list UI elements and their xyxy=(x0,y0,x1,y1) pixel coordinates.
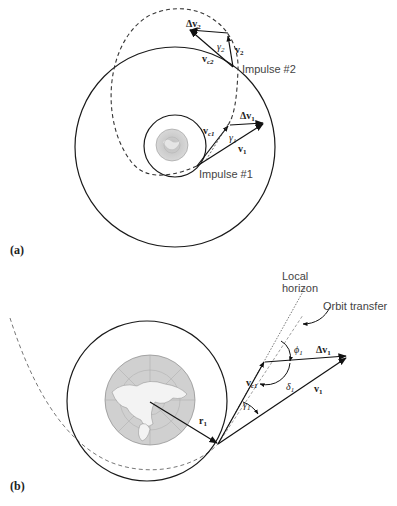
orbit-transfer-label: Orbit transfer xyxy=(323,300,388,312)
local-horizon-label-2: horizon xyxy=(282,282,318,294)
earth-globe-icon xyxy=(105,355,195,445)
vc1-arrow-b xyxy=(218,362,264,444)
label-vc2-a: vc2 xyxy=(202,53,214,66)
label-phi1: ϕ1 xyxy=(294,344,303,357)
label-dv1-b: Δv1 xyxy=(316,344,331,357)
orbit-transfer-line xyxy=(218,315,303,444)
local-horizon-label-1: Local xyxy=(282,270,308,282)
label-v1-a: v1 xyxy=(238,143,247,156)
label-delta1: δ1 xyxy=(286,381,294,394)
phi1-arc xyxy=(281,341,290,361)
impulse-1-label: Impulse #1 xyxy=(199,168,253,180)
panel-a-label: (a) xyxy=(10,243,24,257)
label-dv2-a: Δv2 xyxy=(186,18,201,31)
dv1-arrow-b xyxy=(265,356,346,362)
label-v1-b: v1 xyxy=(314,383,323,396)
panel-a: Δv1 vc1 γ1 v1 Impulse #1 Δv2 γ2 v2 vc2 I… xyxy=(10,9,296,257)
dv2-arrow xyxy=(190,30,228,33)
dv1-arrow xyxy=(230,123,263,125)
impulse-2-label: Impulse #2 xyxy=(242,63,296,75)
label-dv1-a: Δv1 xyxy=(240,110,255,123)
v1-arrow-b xyxy=(218,358,346,444)
label-r1: r1 xyxy=(199,415,207,428)
panel-b-label: (b) xyxy=(10,479,25,493)
label-vc1-b: vc1 xyxy=(246,377,258,390)
orbit-transfer-diagram: Δv1 vc1 γ1 v1 Impulse #1 Δv2 γ2 v2 vc2 I… xyxy=(0,0,397,506)
label-gamma1-a: γ1 xyxy=(229,132,236,145)
earth-icon xyxy=(156,129,188,161)
panel-b: Local horizon Orbit transfer ϕ1 Δv1 vc1 … xyxy=(10,270,388,493)
label-gamma1-b: γ1 xyxy=(243,399,250,412)
label-gamma2-a: γ2 xyxy=(217,41,225,54)
